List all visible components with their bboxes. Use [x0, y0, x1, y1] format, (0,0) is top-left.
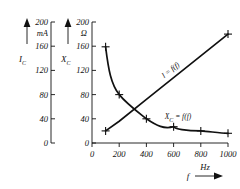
axis-x-tick-label: 600 [167, 149, 181, 159]
axis-left-unit: mA [37, 28, 49, 38]
axis-x-tick-label: 0 [90, 149, 95, 159]
axis-left-arrow-icon [24, 18, 31, 44]
axis-left-tick-label: 120 [35, 65, 49, 75]
axis-second-xc: 200 160 120 80 40 0 Ω XC [60, 17, 96, 148]
axis-x-unit: Hz [199, 162, 210, 172]
axis-x-tick-label: 400 [140, 149, 154, 159]
axis-second-tick-label: 40 [81, 114, 90, 124]
chart-figure: 200 160 120 80 40 0 mA IC 200 160 120 80… [0, 0, 240, 189]
axis-second-tick-label: 120 [76, 65, 90, 75]
axis-left-tick-label: 80 [40, 90, 49, 100]
axis-x-arrow-icon [195, 172, 223, 179]
axis-left-symbol: IC [18, 54, 27, 66]
axis-second-arrow-icon [65, 18, 72, 44]
axis-left-tick-label: 0 [44, 138, 49, 148]
chart-svg: 200 160 120 80 40 0 mA IC 200 160 120 80… [0, 0, 240, 189]
axis-x-tick-label: 200 [113, 149, 127, 159]
axis-second-tick-label: 80 [81, 90, 90, 100]
axis-x-tick-label: 1000 [220, 149, 238, 159]
xc-curve-label: XC = f(f) [164, 112, 192, 123]
axis-second-tick-label: 200 [76, 17, 90, 27]
axis-x: 0 200 400 600 800 1000 Hz f [90, 143, 237, 181]
ic-line-label: I = f(f) [159, 60, 182, 81]
xc-data-markers [102, 43, 232, 138]
axis-left-tick-label: 160 [35, 41, 49, 51]
axis-x-symbol: f [187, 171, 191, 181]
axis-second-tick-label: 0 [85, 138, 90, 148]
axis-left-tick-label: 200 [35, 17, 49, 27]
axis-second-unit: Ω [81, 28, 87, 38]
axis-left-tick-label: 40 [40, 114, 49, 124]
axis-x-tick-label: 800 [194, 149, 208, 159]
axis-second-symbol: XC [60, 54, 72, 66]
axis-second-tick-label: 160 [76, 41, 90, 51]
axis-left-ic: 200 160 120 80 40 0 mA IC [18, 17, 55, 148]
series-xc-curve: XC = f(f) [102, 43, 232, 138]
